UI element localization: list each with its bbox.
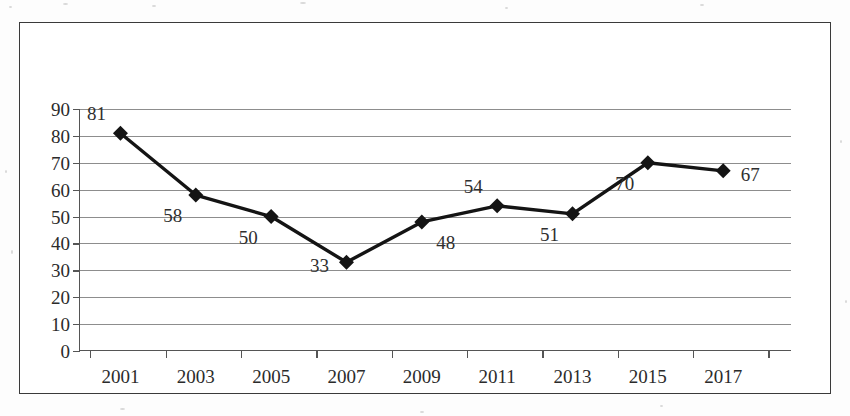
x-axis-tick	[768, 350, 769, 358]
scan-speckle	[840, 140, 842, 143]
data-point-label: 81	[87, 104, 106, 123]
data-point-marker[interactable]	[414, 214, 429, 229]
scan-speckle	[9, 6, 12, 8]
scan-speckle	[11, 250, 13, 254]
x-axis-label: 2007	[327, 367, 365, 386]
x-axis-label: 2001	[101, 367, 139, 386]
y-axis-label: 0	[61, 342, 71, 361]
data-point-label: 54	[464, 176, 483, 195]
x-axis-label: 2009	[403, 367, 441, 386]
data-point-label: 70	[615, 173, 634, 192]
scan-speckle	[63, 3, 68, 5]
y-axis-label: 50	[51, 207, 70, 226]
x-axis-label: 2015	[629, 367, 667, 386]
x-axis-tick	[693, 350, 694, 358]
scan-speckle	[5, 170, 7, 173]
data-point-label: 33	[310, 256, 329, 275]
data-series-line	[79, 109, 791, 351]
data-point-marker[interactable]	[490, 198, 505, 213]
data-point-label: 51	[540, 224, 559, 243]
y-axis-label: 70	[51, 153, 70, 172]
data-point-label: 48	[436, 232, 455, 251]
y-axis-label: 90	[51, 100, 70, 119]
x-axis-tick	[166, 350, 167, 358]
y-axis-label: 30	[51, 261, 70, 280]
y-axis-label: 60	[51, 180, 70, 199]
scan-speckle	[420, 411, 424, 413]
scan-speckle	[700, 4, 704, 6]
x-axis-label: 2005	[252, 367, 290, 386]
data-point-marker[interactable]	[264, 209, 279, 224]
scan-speckle	[505, 7, 508, 9]
scan-speckle	[660, 405, 663, 407]
data-point-label: 67	[741, 164, 760, 183]
chart-frame: 9080706050403020100 20012003200520072009…	[19, 22, 831, 394]
scan-speckle	[120, 408, 125, 410]
x-axis-label: 2017	[704, 367, 742, 386]
plot-area: 9080706050403020100 20012003200520072009…	[79, 109, 791, 351]
x-axis-tick	[316, 350, 317, 358]
x-axis-tick	[618, 350, 619, 358]
x-axis-tick	[542, 350, 543, 358]
data-point-marker[interactable]	[716, 163, 731, 178]
x-axis-label: 2013	[554, 367, 592, 386]
data-point-marker[interactable]	[339, 255, 354, 270]
y-axis-label: 20	[51, 288, 70, 307]
scan-speckle	[152, 5, 156, 7]
series-polyline	[120, 133, 723, 262]
x-axis-tick	[90, 350, 91, 358]
x-axis-label: 2011	[479, 367, 516, 386]
scan-speckle	[845, 300, 847, 303]
x-axis-tick	[241, 350, 242, 358]
data-point-label: 50	[239, 227, 258, 246]
x-axis-label: 2003	[177, 367, 215, 386]
y-axis-tick	[73, 351, 80, 352]
y-axis-label: 80	[51, 126, 70, 145]
y-axis-label: 40	[51, 234, 70, 253]
x-axis-tick	[467, 350, 468, 358]
data-point-label: 58	[163, 206, 182, 225]
y-axis-label: 10	[51, 315, 70, 334]
scan-speckle	[300, 2, 306, 4]
x-axis-tick	[392, 350, 393, 358]
